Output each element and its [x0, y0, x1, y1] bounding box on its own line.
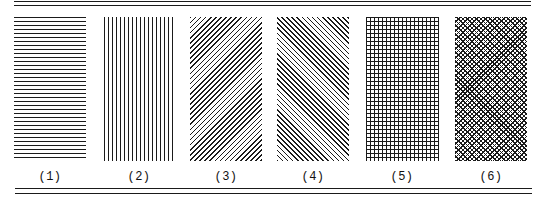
top-rule-2 [14, 5, 531, 6]
pattern-label-5: (5) [366, 170, 438, 184]
top-rule-1 [14, 1, 531, 2]
bottom-rule-1 [15, 188, 532, 189]
pattern-vertical-lines [104, 17, 174, 161]
bottom-rule-2 [15, 193, 532, 194]
pattern-crosshatch [455, 17, 527, 161]
pattern-diagonal-right [190, 17, 262, 161]
pattern-label-1: (1) [14, 170, 86, 184]
pattern-horizontal-lines [14, 17, 86, 161]
pattern-label-4: (4) [277, 170, 349, 184]
pattern-diagonal-left [277, 17, 349, 161]
pattern-label-6: (6) [455, 170, 527, 184]
pattern-label-3: (3) [190, 170, 262, 184]
pattern-square-grid [366, 17, 439, 161]
pattern-label-2: (2) [103, 170, 175, 184]
